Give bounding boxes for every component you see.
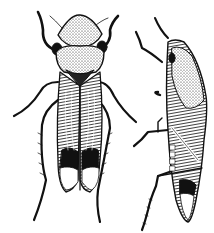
illustration-canvas [0, 0, 214, 233]
dorsal-view [14, 12, 136, 222]
leafhopper-illustration [0, 0, 214, 233]
lateral-view [134, 18, 207, 230]
